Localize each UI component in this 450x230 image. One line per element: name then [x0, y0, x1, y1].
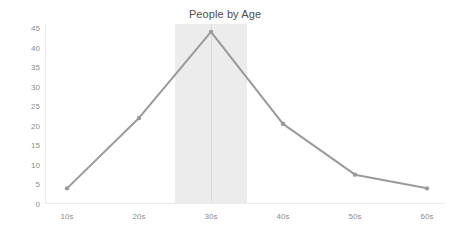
y-tick-label: 15: [31, 141, 40, 150]
data-point-marker: [281, 122, 285, 126]
y-tick-label: 20: [31, 121, 40, 130]
series-line: [67, 32, 427, 188]
chart-title: People by Age: [0, 8, 450, 20]
y-tick-label: 40: [31, 43, 40, 52]
data-point-marker: [425, 186, 429, 190]
y-tick-label: 45: [31, 24, 40, 33]
y-tick-label: 10: [31, 160, 40, 169]
data-point-marker: [65, 186, 69, 190]
x-tick-label: 60s: [421, 212, 434, 221]
x-tick-label: 10s: [61, 212, 74, 221]
y-tick-label: 0: [36, 200, 40, 209]
y-tick-label: 35: [31, 63, 40, 72]
x-tick-label: 30s: [205, 212, 218, 221]
data-point-marker: [353, 172, 357, 176]
y-tick-label: 5: [36, 180, 40, 189]
x-tick-label: 40s: [277, 212, 290, 221]
x-tick-label: 50s: [349, 212, 362, 221]
chart-container: People by Age 051015202530354045 10s20s3…: [0, 0, 450, 230]
data-point-marker: [137, 116, 141, 120]
plot-area: 051015202530354045 10s20s30s40s50s60s: [45, 28, 445, 204]
line-series: [45, 22, 445, 210]
y-tick-label: 25: [31, 102, 40, 111]
y-tick-label: 30: [31, 82, 40, 91]
x-tick-label: 20s: [133, 212, 146, 221]
data-point-marker: [209, 30, 213, 34]
